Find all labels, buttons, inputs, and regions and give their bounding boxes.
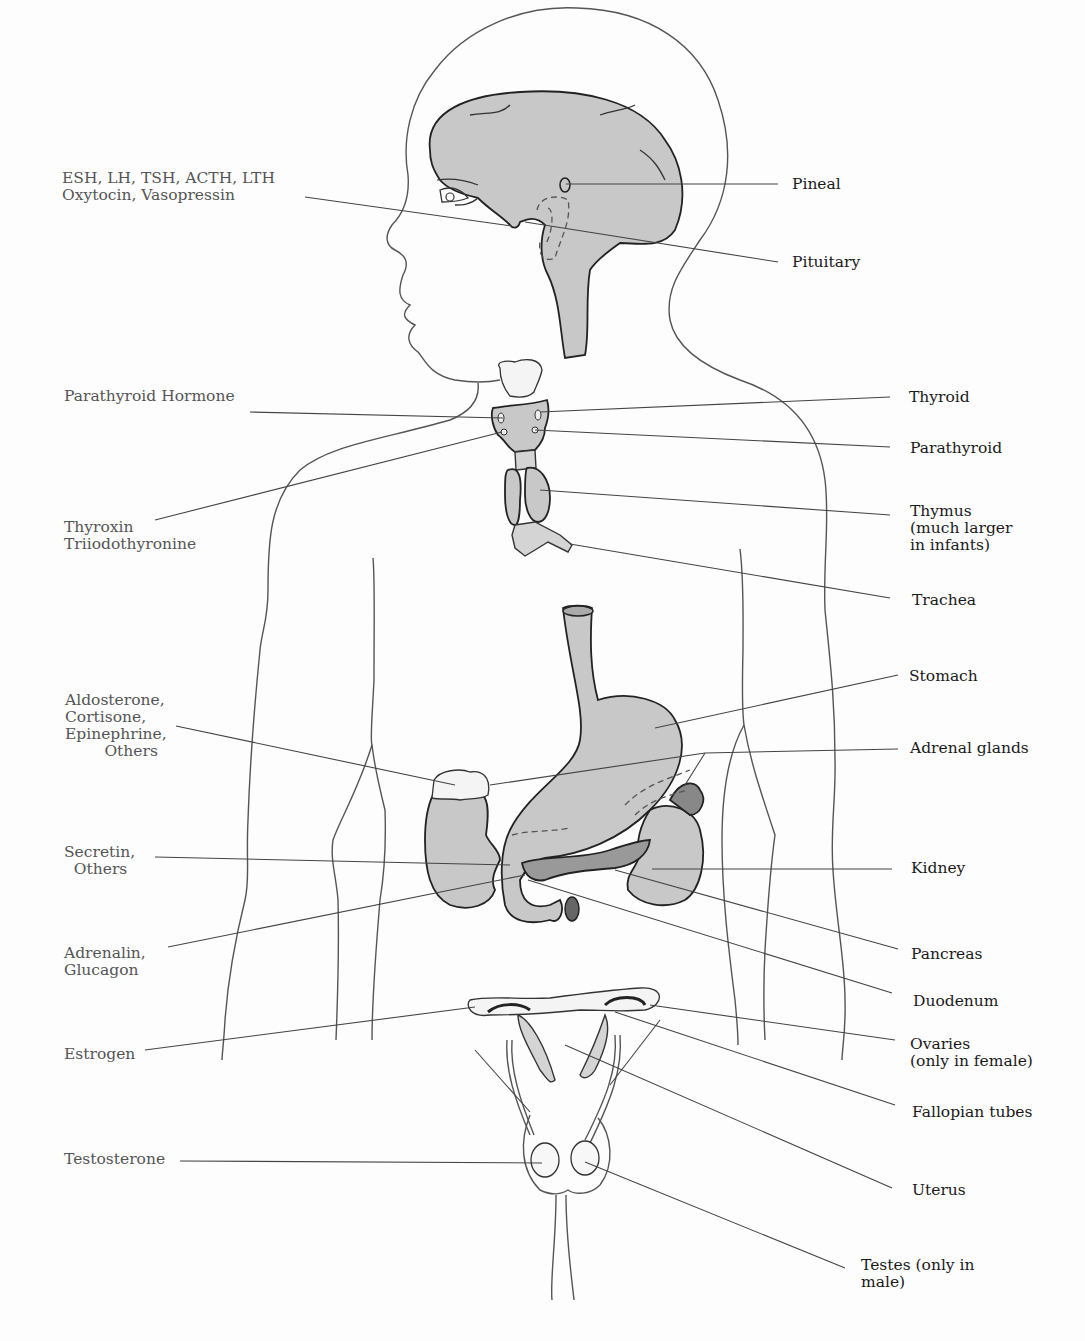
abdomen-organs-illustration	[425, 606, 703, 922]
organ-label-adrenal-glands: Adrenal glands	[910, 740, 1029, 757]
organ-label-pituitary: Pituitary	[792, 254, 860, 271]
reproductive-illustration	[468, 988, 659, 1300]
organ-label-fallopian-tubes: Fallopian tubes	[912, 1104, 1032, 1121]
organ-label-testes: Testes (only in male)	[861, 1257, 975, 1291]
organ-label-trachea: Trachea	[912, 592, 976, 609]
organ-label-kidney: Kidney	[911, 860, 965, 877]
hormone-label-thyroid: Thyroxin Triiodothyronine	[64, 519, 196, 553]
organ-label-thyroid: Thyroid	[909, 389, 970, 406]
hormone-label-pituitary: ESH, LH, TSH, ACTH, LTH Oxytocin, Vasopr…	[62, 170, 275, 204]
organ-label-pineal: Pineal	[792, 176, 841, 193]
leader-lines	[145, 184, 898, 1268]
hormone-label-duodenum: Secretin, Others	[64, 844, 135, 878]
organ-label-duodenum: Duodenum	[913, 993, 999, 1010]
hormone-label-ovaries: Estrogen	[64, 1046, 135, 1063]
neck-glands-illustration	[492, 360, 572, 556]
organ-label-thymus: Thymus (much larger in infants)	[910, 503, 1012, 554]
hormone-label-testes: Testosterone	[64, 1151, 165, 1168]
organ-label-stomach: Stomach	[909, 668, 978, 685]
organ-label-pancreas: Pancreas	[911, 946, 982, 963]
organ-label-parathyroid: Parathyroid	[910, 440, 1002, 457]
endocrine-diagram: ESH, LH, TSH, ACTH, LTH Oxytocin, Vasopr…	[0, 0, 1085, 1341]
hormone-label-adrenal: Aldosterone, Cortisone, Epinephrine, Oth…	[65, 692, 167, 760]
hormone-label-parathyroid: Parathyroid Hormone	[64, 388, 235, 405]
brain-illustration	[430, 91, 683, 358]
organ-label-ovaries: Ovaries (only in female)	[910, 1036, 1033, 1070]
hormone-label-pancreas: Adrenalin, Glucagon	[64, 945, 146, 979]
organ-label-uterus: Uterus	[912, 1182, 966, 1199]
